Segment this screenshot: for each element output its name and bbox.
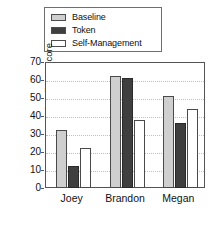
y-tick-mark xyxy=(41,152,44,153)
bar-joey-baseline xyxy=(56,130,67,188)
x-tick-label-joey: Joey xyxy=(45,192,98,204)
y-tick-label: 40 xyxy=(15,111,41,121)
legend-item-token: Token xyxy=(51,24,157,37)
chart-legend: Baseline Token Self-Management xyxy=(44,7,162,52)
legend-label-token: Token xyxy=(72,26,96,35)
bar-brandon-self-management xyxy=(134,120,145,188)
legend-label-baseline: Baseline xyxy=(72,13,106,22)
y-tick-label: 20 xyxy=(15,147,41,157)
y-tick-label: 0 xyxy=(15,183,41,193)
y-tick-label: 50 xyxy=(15,93,41,103)
y-tick-label: 70 xyxy=(15,57,41,67)
y-tick-mark xyxy=(41,170,44,171)
y-tick-mark xyxy=(41,116,44,117)
y-tick-mark xyxy=(41,188,44,189)
bar-joey-token xyxy=(68,166,79,188)
x-tick-label-megan: Megan xyxy=(152,192,205,204)
legend-item-self-management: Self-Management xyxy=(51,37,157,50)
bar-chart-figure: Baseline Token Self-Management Slide Eff… xyxy=(0,0,220,229)
bar-brandon-token xyxy=(122,78,133,188)
y-tick-mark xyxy=(41,134,44,135)
x-axis-labels: JoeyBrandonMegan xyxy=(45,192,205,208)
y-tick-mark xyxy=(41,98,44,99)
y-tick-mark xyxy=(41,80,44,81)
y-axis-ticks: 010203040506070 xyxy=(11,62,41,188)
y-tick-label: 30 xyxy=(15,129,41,139)
y-tick-label: 60 xyxy=(15,75,41,85)
legend-item-baseline: Baseline xyxy=(51,11,157,24)
legend-swatch-baseline xyxy=(51,14,66,21)
y-tick-label: 10 xyxy=(15,165,41,175)
bar-joey-self-management xyxy=(80,148,91,188)
bar-brandon-baseline xyxy=(110,76,121,188)
bar-megan-self-management xyxy=(187,109,198,188)
legend-label-self-management: Self-Management xyxy=(72,39,142,48)
x-tick-label-brandon: Brandon xyxy=(98,192,151,204)
bars-layer xyxy=(45,62,205,188)
y-tick-mark xyxy=(41,62,44,63)
bar-megan-baseline xyxy=(163,96,174,188)
bar-megan-token xyxy=(175,123,186,188)
